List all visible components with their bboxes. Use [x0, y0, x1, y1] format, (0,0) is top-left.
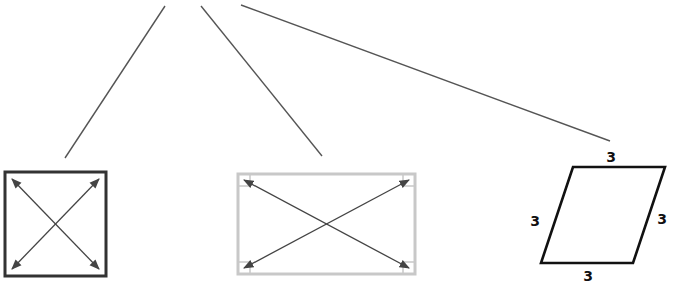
branch-to-rhombus — [241, 5, 610, 141]
rectangle-shape — [238, 174, 415, 274]
rhombus-side-label-right: 3 — [657, 211, 667, 227]
branch-to-square — [65, 6, 165, 158]
rhombus-side-label-bottom: 3 — [583, 268, 593, 284]
square-shape — [5, 172, 106, 276]
rhombus-side-label-left: 3 — [530, 213, 540, 229]
rhombus-shape: 3 3 3 3 — [530, 149, 667, 284]
quadrilateral-diagram: 3 3 3 3 — [0, 0, 675, 293]
branch-lines — [65, 5, 610, 158]
rhombus-side-label-top: 3 — [606, 149, 616, 165]
